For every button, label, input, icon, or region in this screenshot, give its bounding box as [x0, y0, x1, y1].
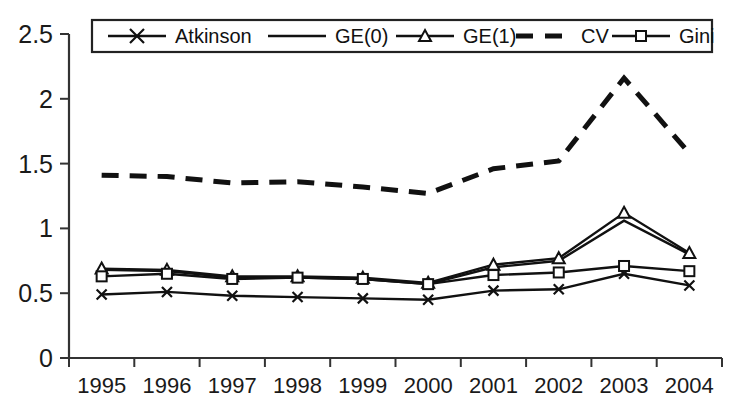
legend-item-label: GE(0) [335, 25, 388, 47]
x-tick-label: 2000 [404, 373, 453, 398]
x-tick-label: 2002 [534, 373, 583, 398]
marker-square-icon [423, 279, 433, 289]
marker-square-icon [554, 267, 564, 277]
legend-item-label: CV [581, 25, 609, 47]
x-tick-label: 1998 [273, 373, 322, 398]
x-tick-label: 2003 [600, 373, 649, 398]
legend-item-label: Gini [679, 25, 715, 47]
marker-square-icon [227, 274, 237, 284]
chart-canvas: 00.511.522.5 199519961997199819992000200… [0, 0, 736, 417]
marker-square-icon [636, 31, 646, 41]
legend-item-label: Atkinson [175, 25, 252, 47]
marker-square-icon [162, 269, 172, 279]
x-tick-label: 1997 [208, 373, 257, 398]
x-tick-label: 1996 [142, 373, 191, 398]
y-tick-label: 2 [39, 85, 53, 113]
y-tick-label: 1.5 [18, 150, 53, 178]
y-tick-label: 1 [39, 214, 53, 242]
y-tick-label: 0 [39, 344, 53, 372]
marker-square-icon [488, 270, 498, 280]
x-tick-label: 2004 [665, 373, 714, 398]
legend-item-label: GE(1) [463, 25, 516, 47]
marker-square-icon [358, 274, 368, 284]
marker-square-icon [97, 271, 107, 281]
legend: AtkinsonGE(0)GE(1)CVGini [92, 20, 715, 52]
x-tick-label: 2001 [469, 373, 518, 398]
marker-square-icon [293, 273, 303, 283]
x-tick-label: 1995 [77, 373, 126, 398]
x-tick-label: 1999 [338, 373, 387, 398]
marker-square-icon [684, 266, 694, 276]
marker-square-icon [619, 261, 629, 271]
y-tick-label: 0.5 [18, 279, 53, 307]
y-tick-label: 2.5 [18, 20, 53, 48]
line-chart: 00.511.522.5 199519961997199819992000200… [0, 0, 736, 417]
